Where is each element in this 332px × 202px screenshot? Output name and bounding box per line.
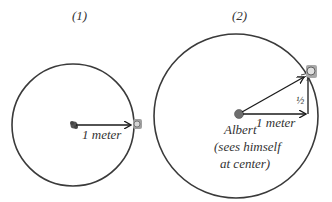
diagonal-arrow-2 bbox=[242, 77, 304, 112]
panel-1-title: (1) bbox=[72, 8, 87, 24]
rim-object-1 bbox=[133, 119, 142, 129]
albert-label: Albert bbox=[224, 122, 257, 138]
panel-2-title: (2) bbox=[232, 8, 247, 24]
albert-note-line2: at center) bbox=[220, 156, 270, 172]
panel-2-arrow-label: 1 meter bbox=[256, 115, 295, 131]
half-label: ½ bbox=[296, 94, 304, 106]
albert-note-line1: (sees himself bbox=[214, 139, 281, 155]
diagram-canvas bbox=[0, 0, 332, 202]
albert-dot bbox=[235, 110, 244, 119]
panel-1 bbox=[12, 64, 142, 186]
panel-1-arrow-label: 1 meter bbox=[82, 127, 121, 143]
